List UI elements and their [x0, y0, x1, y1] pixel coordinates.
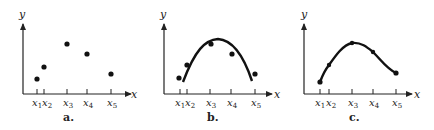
- svg-text:x4: x4: [369, 97, 380, 110]
- tick-labels: x1 x2 x3 x4 x5: [32, 97, 117, 110]
- svg-text:x5: x5: [107, 97, 117, 110]
- figure-canvas: y x x1 x2 x3 x4 x5 a. y x: [0, 0, 434, 130]
- svg-text:x2: x2: [326, 97, 336, 110]
- interpolating-curve: [320, 43, 396, 82]
- ticks: [180, 89, 255, 94]
- panel-caption: a.: [63, 111, 74, 124]
- x-axis-label: x: [414, 88, 421, 101]
- panel-caption: c.: [349, 111, 360, 124]
- svg-text:x5: x5: [251, 97, 261, 110]
- svg-text:x2: x2: [185, 97, 195, 110]
- x-axis-label: x: [274, 88, 281, 101]
- panel-c: y x x1 x2 x3 x4 x5 c.: [300, 8, 421, 124]
- y-axis-label: y: [159, 8, 167, 21]
- svg-text:x2: x2: [42, 97, 52, 110]
- svg-text:x4: x4: [83, 97, 94, 110]
- fit-curve: [183, 39, 252, 82]
- svg-text:x4: x4: [227, 97, 238, 110]
- ticks: [320, 89, 396, 94]
- panel-a: y x x1 x2 x3 x4 x5 a.: [18, 8, 138, 124]
- y-axis-label: y: [300, 8, 308, 21]
- data-points: [34, 41, 113, 81]
- panel-b: y x x1 x2 x3 x4 x5 b.: [159, 8, 281, 124]
- svg-text:x5: x5: [392, 97, 402, 110]
- svg-text:x3: x3: [63, 97, 73, 110]
- ticks: [37, 89, 111, 94]
- data-points: [176, 41, 257, 80]
- tick-labels: x1 x2 x3 x4 x5: [315, 97, 402, 110]
- svg-text:x3: x3: [348, 97, 358, 110]
- panel-caption: b.: [207, 111, 219, 124]
- svg-text:x1: x1: [175, 97, 185, 110]
- y-axis-label: y: [18, 8, 26, 21]
- svg-text:x1: x1: [32, 97, 42, 110]
- tick-labels: x1 x2 x3 x4 x5: [175, 97, 261, 110]
- svg-text:x3: x3: [206, 97, 216, 110]
- x-axis-label: x: [131, 88, 138, 101]
- svg-text:x1: x1: [315, 97, 325, 110]
